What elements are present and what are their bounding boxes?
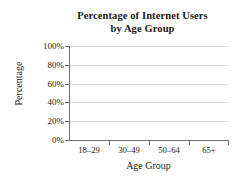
y-tick-label-100: 100%	[26, 42, 64, 51]
plot-background	[69, 46, 228, 140]
y-tick-mark-0	[65, 140, 69, 141]
gridline-80	[69, 65, 228, 66]
y-tick-mark-100	[65, 46, 69, 47]
gridline-20	[69, 121, 228, 122]
bar-chart-figure: Percentage of Internet Users by Age Grou…	[0, 0, 251, 184]
x-axis-tick-labels: 18–29 30–49 50–64 65+	[69, 145, 228, 157]
y-tick-label-0: 0%	[26, 136, 64, 145]
y-tick-mark-60	[65, 84, 69, 85]
y-axis-label: Percentage	[13, 48, 24, 120]
chart-title: Percentage of Internet Users by Age Grou…	[50, 10, 235, 35]
plot-area	[69, 46, 228, 140]
y-tick-mark-80	[65, 65, 69, 66]
gridline-40	[69, 102, 228, 103]
y-tick-mark-40	[65, 102, 69, 103]
x-tick-label-18-29: 18–29	[69, 145, 109, 155]
y-tick-mark-20	[65, 121, 69, 122]
y-tick-label-80: 80%	[26, 61, 64, 70]
y-tick-label-20: 20%	[26, 117, 64, 126]
y-tick-label-60: 60%	[26, 80, 64, 89]
chart-title-line-2: by Age Group	[50, 23, 235, 36]
y-axis-tick-labels: 100% 80% 60% 40% 20% 0%	[26, 0, 64, 184]
gridline-60	[69, 84, 228, 85]
y-axis-line	[69, 46, 70, 141]
chart-title-line-1: Percentage of Internet Users	[50, 10, 235, 23]
x-axis-label: Age Group	[69, 160, 228, 171]
y-tick-label-40: 40%	[26, 98, 64, 107]
x-tick-label-50-64: 50–64	[149, 145, 189, 155]
x-tick-label-30-49: 30–49	[109, 145, 149, 155]
gridline-100	[69, 46, 228, 47]
x-tick-label-65-plus: 65+	[189, 145, 229, 155]
